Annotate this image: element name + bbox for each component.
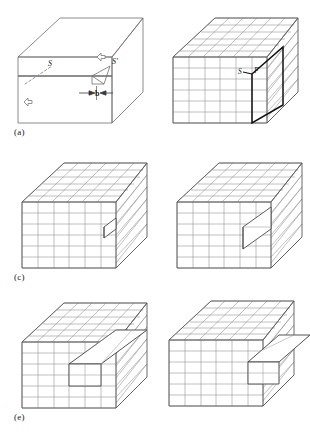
label-S-prime: S' [112,57,118,66]
shear-arrow-left-front [24,98,32,106]
label-F: F [253,66,259,75]
label-burgers-vector: b [95,89,100,98]
shear-arrow-left-top [97,53,105,61]
panel-dislocation-step-4: (f) [155,290,310,435]
panel-label-a: (a) [14,127,25,137]
panel-dislocation-step-3: (e) [0,290,155,435]
panel-burgers-circuit: S F (b) [155,0,310,145]
dislocation-figure: S S' b (a) [0,0,310,435]
panel-dislocation-step-1: (c) [0,147,155,292]
panel-label-e: (e) [14,412,25,422]
slip-step-block [69,330,147,386]
dislocation-line-dashed [25,66,52,84]
slip-step-notch [243,207,271,249]
panel-slip-geometry: S S' b (a) [0,0,155,145]
panel-dislocation-step-2: (d) [155,147,310,292]
label-S: S [238,67,242,76]
label-S: S [48,59,52,68]
panel-label-c: (c) [14,272,25,282]
